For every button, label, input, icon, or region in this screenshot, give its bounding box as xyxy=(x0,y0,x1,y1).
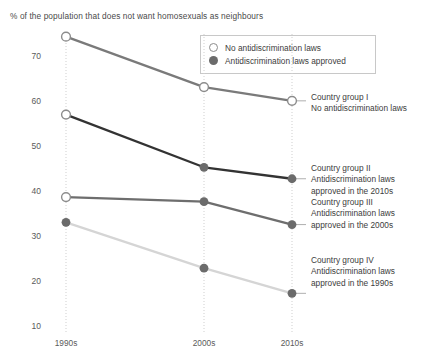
annotation-group-3: Country group III Antidiscrimination law… xyxy=(311,197,395,231)
annotation-line: Country group IV xyxy=(311,255,395,266)
annotation-line: Country group III xyxy=(311,197,395,208)
annotation-line: Antidiscrimination laws xyxy=(311,174,395,185)
y-axis-tick-70: 70 xyxy=(17,51,41,61)
annotation-line: Country group II xyxy=(311,163,395,174)
y-axis-tick-30: 30 xyxy=(17,231,41,241)
annotation-line: Antidiscrimination laws xyxy=(311,208,395,219)
y-axis-tick-40: 40 xyxy=(17,186,41,196)
data-point-open xyxy=(62,110,71,119)
data-point-filled xyxy=(288,174,297,183)
data-point-filled xyxy=(288,220,297,229)
data-point-open xyxy=(62,193,71,202)
y-axis-tick-20: 20 xyxy=(17,276,41,286)
annotation-line: Antidiscrimination laws xyxy=(311,266,395,277)
x-axis-tick-2000s: 2000s xyxy=(179,338,229,348)
data-point-filled xyxy=(288,289,297,298)
series-line-3 xyxy=(66,197,292,225)
annotation-group-2: Country group II Antidiscrimination laws… xyxy=(311,163,395,197)
annotation-group-4: Country group IV Antidiscrimination laws… xyxy=(311,255,395,289)
x-axis-tick-1990s: 1990s xyxy=(41,338,91,348)
data-point-filled xyxy=(62,218,71,227)
annotation-line: approved in the 2010s xyxy=(311,186,395,197)
annotation-line: approved in the 1990s xyxy=(311,278,395,289)
y-axis-tick-60: 60 xyxy=(17,96,41,106)
data-point-filled xyxy=(200,197,209,206)
data-point-filled xyxy=(200,264,209,273)
series-line-1 xyxy=(66,37,292,101)
data-point-open xyxy=(62,32,71,41)
series-line-4 xyxy=(66,222,292,293)
y-axis-tick-50: 50 xyxy=(17,141,41,151)
y-axis-tick-10: 10 xyxy=(17,321,41,331)
data-point-open xyxy=(200,83,209,92)
annotation-group-1: Country group I No antidiscrimination la… xyxy=(311,92,407,115)
annotation-line: approved in the 2000s xyxy=(311,220,395,231)
x-axis-tick-2010s: 2010s xyxy=(267,338,317,348)
annotation-line: Country group I xyxy=(311,92,407,103)
annotation-line: No antidiscrimination laws xyxy=(311,103,407,114)
data-point-filled xyxy=(200,163,209,172)
data-point-open xyxy=(288,96,297,105)
series-line-2 xyxy=(66,115,292,179)
